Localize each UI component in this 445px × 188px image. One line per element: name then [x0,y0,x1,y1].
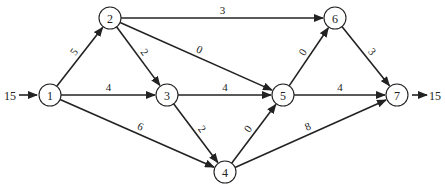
node-label: 4 [222,166,228,180]
edge-weight-label: 5 [67,45,80,57]
edge-weight-label: 4 [106,81,112,93]
edge-4-7: 8 [235,100,386,168]
node-6: 6 [324,7,346,29]
node-label: 6 [332,12,338,26]
edge-arrow [174,104,218,163]
edge-weight-label: 0 [195,43,205,56]
edge-weight-label: 2 [196,123,209,135]
node-1: 1 [39,84,61,106]
node-7: 7 [386,84,408,106]
node-2: 2 [99,7,121,29]
edge-weight-label: 0 [241,122,254,134]
edge-weight-label: 3 [366,46,379,58]
edge-1-2: 5 [57,27,103,86]
sink-flow-label: 15 [429,89,441,103]
edge-3-4: 2 [174,104,218,163]
edge-1-3: 4 [61,81,155,95]
edge-weight-label: 4 [337,81,343,93]
edge-weight-label: 2 [138,46,151,58]
node-label: 1 [47,89,53,103]
edge-2-3: 2 [117,27,160,86]
edge-arrow [60,99,214,167]
node-label: 7 [394,89,400,103]
edge-arrow [289,28,328,86]
edge-weight-label: 6 [136,120,146,133]
edge-2-6: 3 [121,4,323,18]
edge-weight-label: 8 [303,119,313,132]
edge-4-5: 0 [232,105,276,164]
node-5: 5 [272,84,294,106]
edge-weight-label: 3 [220,4,226,16]
edge-arrow [117,27,160,86]
edge-arrow [235,100,386,168]
edge-5-7: 4 [294,81,385,95]
edge-5-6: 0 [289,28,328,86]
network-diagram: 5462034208043 1234567 15 15 [0,0,445,188]
node-label: 5 [280,89,286,103]
edge-arrow [342,27,390,86]
edge-arrow [232,105,276,164]
edge-weight-label: 4 [222,81,228,93]
source-flow-label: 15 [4,89,16,103]
node-label: 3 [164,89,170,103]
edge-1-4: 6 [60,99,214,167]
edge-weight-label: 0 [296,46,309,58]
node-4: 4 [214,161,236,183]
edge-6-7: 3 [342,27,390,86]
node-3: 3 [156,84,178,106]
edge-arrow [57,27,103,86]
node-label: 2 [107,12,113,26]
